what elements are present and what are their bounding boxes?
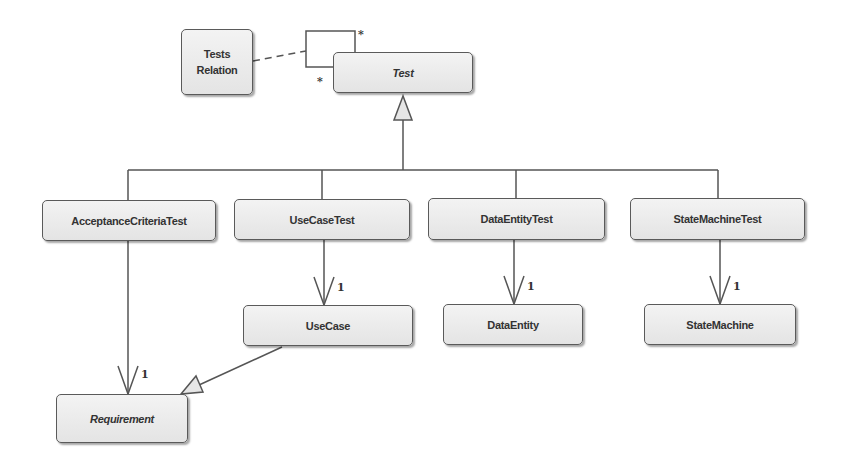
class-tests-relation[interactable]: Tests Relation xyxy=(181,29,253,95)
class-state-machine-test[interactable]: StateMachineTest xyxy=(630,198,805,240)
association-class-dashed-link xyxy=(253,51,306,61)
class-label: Test xyxy=(392,65,413,81)
class-use-case[interactable]: UseCase xyxy=(243,305,413,346)
class-test[interactable]: Test xyxy=(333,52,473,93)
multiplicity-self-bottom: * xyxy=(317,75,323,88)
class-data-entity-test[interactable]: DataEntityTest xyxy=(428,198,605,240)
class-label: Requirement xyxy=(90,411,154,427)
multiplicity-requirement: 1 xyxy=(141,368,149,381)
class-label: StateMachineTest xyxy=(674,211,762,227)
class-label-line2: Relation xyxy=(197,62,238,78)
uml-class-diagram: * * 1 1 1 1 Tests Relation Test Acceptan… xyxy=(0,0,848,470)
multiplicity-self-top: * xyxy=(358,28,364,41)
class-data-entity[interactable]: DataEntity xyxy=(443,304,583,345)
class-acceptance-criteria-test[interactable]: AcceptanceCriteriaTest xyxy=(42,200,216,241)
class-label-line1: Tests xyxy=(204,46,230,62)
class-label: UseCase xyxy=(306,318,350,334)
class-state-machine[interactable]: StateMachine xyxy=(644,304,796,345)
class-label: UseCaseTest xyxy=(290,212,355,228)
class-label: AcceptanceCriteriaTest xyxy=(71,213,186,229)
generalization-arrowhead-requirement xyxy=(181,376,203,394)
class-label: DataEntity xyxy=(487,317,538,333)
class-label: StateMachine xyxy=(686,317,753,333)
class-requirement[interactable]: Requirement xyxy=(56,394,188,443)
generalization-arrowhead-test xyxy=(394,96,412,120)
generalization-usecase-requirement xyxy=(199,347,282,385)
class-use-case-test[interactable]: UseCaseTest xyxy=(234,199,410,240)
class-label: DataEntityTest xyxy=(481,211,553,227)
multiplicity-dataentity: 1 xyxy=(527,280,535,293)
multiplicity-statemachine: 1 xyxy=(733,280,741,293)
multiplicity-usecase: 1 xyxy=(337,281,345,294)
